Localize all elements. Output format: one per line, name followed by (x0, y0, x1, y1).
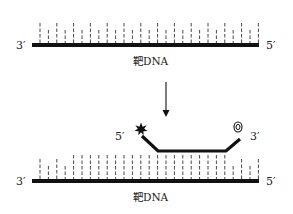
top-target-dna-label: 靶DNA (133, 56, 168, 67)
top-strand-backbone (32, 43, 259, 47)
bottom-target-dna (32, 155, 259, 183)
concentric-ring-icon (234, 122, 242, 132)
top-3prime-label: 3′ (16, 40, 26, 51)
probe-3prime-label: 3′ (250, 131, 260, 142)
top-base-ticks (40, 23, 258, 43)
star-burst-icon (135, 123, 148, 136)
diagram-canvas (0, 0, 293, 214)
bottom-3prime-label: 3′ (16, 176, 26, 187)
bottom-target-dna-label: 靶DNA (133, 192, 168, 203)
top-5prime-label: 5′ (266, 40, 276, 51)
top-target-dna (32, 23, 259, 47)
bottom-base-ticks (40, 155, 258, 179)
bottom-strand-backbone (32, 179, 259, 183)
probe (135, 122, 243, 151)
bottom-5prime-label: 5′ (266, 176, 276, 187)
probe-strand (142, 136, 240, 151)
down-arrow-icon (163, 82, 170, 117)
probe-5prime-label: 5′ (115, 131, 125, 142)
